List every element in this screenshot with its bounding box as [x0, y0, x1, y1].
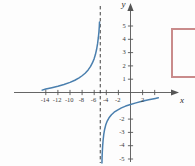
x-tick-label--4: -4	[103, 97, 108, 104]
y-tick-label-3: 3	[123, 49, 126, 56]
x-tick-label--2: -2	[115, 97, 120, 104]
figure-canvas: -14-12-10-8-6-4-2254321-2-3-4-5 x y	[0, 0, 195, 166]
y-tick-label--2: -2	[119, 116, 124, 123]
y-tick-label--3: -3	[119, 129, 124, 136]
graph-svg	[0, 0, 195, 166]
x-axis-arrow	[171, 89, 179, 95]
x-tick-label--14: -14	[41, 97, 50, 104]
y-axis-label: y	[122, 0, 126, 9]
curve-left-branch	[42, 22, 99, 90]
x-tick-label--10: -10	[65, 97, 74, 104]
y-tick-label-5: 5	[123, 23, 126, 30]
callout-bracket	[171, 28, 195, 78]
x-tick-label-2: 2	[141, 97, 144, 104]
y-tick-label-1: 1	[123, 76, 126, 83]
x-tick-label--6: -6	[91, 97, 96, 104]
x-tick-label--8: -8	[79, 97, 84, 104]
y-axis-arrow	[127, 3, 133, 11]
y-tick-label-4: 4	[123, 36, 126, 43]
x-axis-label: x	[180, 96, 184, 105]
axes-group	[14, 3, 179, 162]
y-tick-label-2: 2	[123, 63, 126, 70]
y-tick-label--4: -4	[119, 142, 124, 149]
y-tick-label--5: -5	[119, 156, 124, 163]
x-tick-label--12: -12	[53, 97, 62, 104]
